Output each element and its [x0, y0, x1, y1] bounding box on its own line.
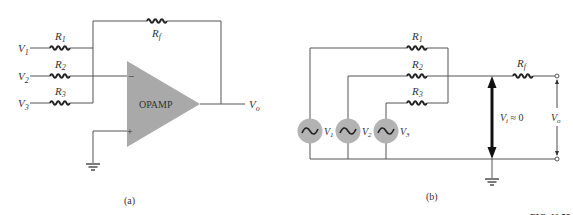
resistor-r2-label: R2 — [54, 58, 66, 72]
resistor-rf-icon — [513, 74, 533, 78]
ac-source-v2-icon — [336, 119, 361, 144]
diagram-a-summing-amplifier: OPAMP − + V1 V2 V3 R1 R2 R3 Rf Vo (a) — [18, 19, 260, 207]
virtual-ground-arrow-icon — [488, 76, 497, 159]
caption-b: (b) — [426, 191, 438, 203]
resistor-r3-label: R3 — [411, 85, 423, 99]
input-v2-label: V2 — [18, 70, 29, 85]
output-terminal-top-icon — [555, 74, 559, 78]
ac-source-v1-icon — [298, 119, 323, 144]
source-v1-label: V1 — [324, 126, 334, 139]
resistor-r3-label: R3 — [54, 85, 66, 99]
resistor-r1-label: R1 — [54, 30, 66, 44]
resistor-r2-label: R2 — [411, 58, 423, 72]
resistor-r1-icon — [50, 46, 70, 50]
diagram-b-equivalent-circuit: V1 V2 V3 R1 R2 R3 Rf Vi ≈ 0 Vo (b) — [298, 30, 562, 203]
output-vo-label: Vo — [551, 112, 561, 125]
noninverting-input-symbol: + — [127, 126, 133, 137]
output-vo-label: Vo — [249, 98, 260, 113]
source-v2-label: V2 — [362, 126, 372, 139]
ground-icon — [485, 179, 499, 185]
ground-icon — [86, 164, 100, 170]
input-v3-label: V3 — [18, 97, 29, 112]
resistor-r1-icon — [407, 46, 427, 50]
resistor-r2-icon — [407, 74, 427, 78]
source-v3-label: V3 — [400, 126, 410, 139]
input-v1-label: V1 — [18, 42, 29, 57]
resistor-rf-label: Rf — [151, 27, 163, 41]
circuit-figure: OPAMP − + V1 V2 V3 R1 R2 R3 Rf Vo (a) — [0, 0, 573, 215]
figure-label: FIG. 11.58 — [530, 212, 571, 215]
output-terminal-bottom-icon — [555, 157, 559, 161]
resistor-r3-icon — [50, 101, 70, 105]
caption-a: (a) — [124, 195, 135, 207]
virtual-ground-label: Vi ≈ 0 — [500, 112, 524, 125]
inverting-input-symbol: − — [128, 70, 134, 82]
resistor-r1-label: R1 — [411, 30, 423, 44]
resistor-rf-icon — [147, 19, 167, 23]
resistor-r2-icon — [50, 74, 70, 78]
resistor-r3-icon — [407, 101, 427, 105]
opamp-label: OPAMP — [139, 99, 173, 110]
ac-source-v3-icon — [374, 119, 399, 144]
resistor-rf-label: Rf — [516, 57, 528, 71]
